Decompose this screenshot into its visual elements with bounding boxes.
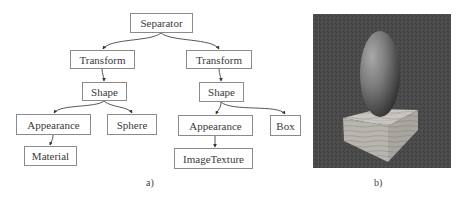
edge-transform-shape-left xyxy=(102,69,104,81)
node-label: Sphere xyxy=(117,119,148,131)
node-label: Transform xyxy=(196,54,242,66)
node-label: Separator xyxy=(140,17,182,29)
node-label: Shape xyxy=(208,86,235,98)
caption-b: b) xyxy=(374,177,382,188)
edge-shape-appearance-left xyxy=(54,101,104,113)
node-transform-right: Transform xyxy=(186,50,252,69)
node-separator: Separator xyxy=(130,13,193,33)
node-sphere: Sphere xyxy=(107,114,157,135)
node-appearance-left: Appearance xyxy=(16,114,91,135)
edge-separator-transform-left xyxy=(103,33,161,49)
node-label: Box xyxy=(276,120,294,132)
edge-shape-appearance-right xyxy=(216,102,221,114)
node-transform-left: Transform xyxy=(70,50,135,69)
node-shape-right: Shape xyxy=(199,82,244,102)
node-box: Box xyxy=(270,115,301,136)
node-label: Appearance xyxy=(27,119,80,131)
node-label: Material xyxy=(32,150,69,162)
node-label: Transform xyxy=(79,54,125,66)
node-label: Shape xyxy=(91,86,118,98)
node-label: Appearance xyxy=(189,120,242,132)
node-label: ImageTexture xyxy=(183,153,244,165)
node-material: Material xyxy=(24,146,77,166)
rendered-scene-image xyxy=(313,14,451,168)
edge-transform-shape-right xyxy=(219,69,221,81)
edge-separator-transform-right xyxy=(161,33,219,49)
ellipsoid-sphere xyxy=(360,31,400,117)
node-appearance-right: Appearance xyxy=(178,115,253,136)
node-shape-left: Shape xyxy=(82,82,127,101)
caption-a: a) xyxy=(146,177,154,188)
edge-shape-box xyxy=(221,102,285,114)
node-imagetexture: ImageTexture xyxy=(174,148,253,169)
edge-appearance-material xyxy=(50,135,53,145)
edge-shape-sphere xyxy=(104,101,132,113)
